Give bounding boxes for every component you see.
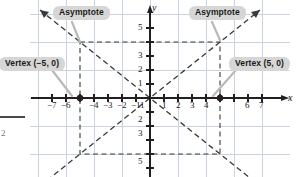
graph-figure: x y −7 −6 −4 −3 −2 −1 1 2 3 4 6 7 5 3 2 …	[0, 0, 302, 177]
vertex-left-callout[interactable]: Vertex (−5, 0)	[0, 57, 65, 71]
x-tick-label: 6	[245, 100, 250, 110]
y-tick-label: 2	[138, 114, 143, 124]
leader-vertex-right	[213, 70, 236, 96]
coordinate-plane-svg	[0, 0, 302, 177]
y-tick-label: 2	[138, 64, 143, 74]
x-tick-label: −4	[89, 100, 99, 110]
y-axis-label: y	[152, 2, 156, 13]
y-tick-label: 1	[140, 100, 145, 110]
x-tick-label: 3	[190, 100, 195, 110]
leader-vertex-left	[52, 70, 72, 96]
x-tick-label: −2	[117, 100, 127, 110]
margin-fraction-digit: 2	[1, 128, 6, 138]
leader-asymptote-right	[212, 22, 220, 40]
x-tick-label: 2	[176, 100, 181, 110]
vertex-right-callout[interactable]: Vertex (5, 0)	[229, 57, 290, 71]
asymptote-right-callout[interactable]: Asymptote	[189, 6, 246, 20]
x-tick-label: −6	[61, 100, 71, 110]
x-tick-label: 1	[162, 100, 167, 110]
vertex-point-left	[77, 95, 83, 101]
y-tick-label: 5	[138, 22, 143, 32]
x-tick-label: −7	[47, 100, 57, 110]
y-tick-label: 3	[138, 50, 143, 60]
y-tick-label: 5	[138, 156, 143, 166]
margin-fraction-rule	[0, 116, 25, 118]
vertex-point-right	[217, 95, 223, 101]
x-tick-label: 4	[204, 100, 209, 110]
x-axis-label: x	[288, 92, 292, 103]
x-tick-label: −3	[103, 100, 113, 110]
asymptote-left-callout[interactable]: Asymptote	[53, 6, 110, 20]
y-tick-label: 1	[138, 78, 143, 88]
y-tick-label: 3	[138, 128, 143, 138]
grid-lines	[30, 0, 290, 177]
x-tick-label: 7	[259, 100, 264, 110]
